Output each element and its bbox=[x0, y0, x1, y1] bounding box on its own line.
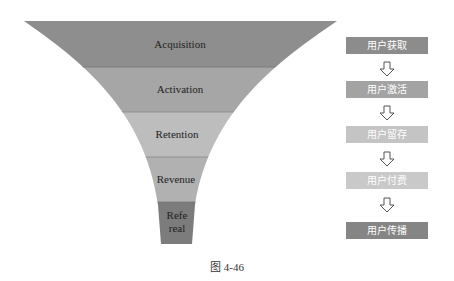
step-user-acquisition: 用户获取 bbox=[346, 37, 428, 54]
down-arrow-icon bbox=[378, 105, 396, 121]
stage-label-referral-line2: real bbox=[117, 222, 237, 235]
stage-label-referral-line1: Refe bbox=[117, 209, 237, 222]
stage-label-revenue: Revenue bbox=[116, 173, 236, 186]
stage-label-acquisition: Acquisition bbox=[120, 38, 240, 51]
stage-label-activation: Activation bbox=[120, 83, 240, 96]
down-arrow-icon bbox=[378, 151, 396, 167]
figure-caption: 图 4-46 bbox=[0, 258, 454, 274]
down-arrow-icon bbox=[378, 197, 396, 213]
step-user-retention: 用户留存 bbox=[346, 126, 428, 143]
down-arrow-icon bbox=[378, 61, 396, 77]
step-user-revenue: 用户付费 bbox=[346, 172, 428, 189]
step-user-referral: 用户传播 bbox=[346, 222, 428, 239]
stage-label-retention: Retention bbox=[117, 128, 237, 141]
step-user-activation: 用户激活 bbox=[346, 81, 428, 98]
